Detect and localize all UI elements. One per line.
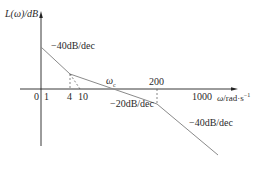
tick-10-text: 10 [78, 91, 88, 102]
bode-diagram [0, 0, 272, 169]
tick-label-1: 1 [44, 92, 49, 102]
crossover-sub: c [113, 82, 116, 88]
x-axis-label: ω/rad·s−1 [217, 92, 250, 103]
tick-origin-text: 0 [34, 91, 39, 102]
crossover-omega: ω [106, 75, 113, 86]
x-axis-exp: −1 [244, 92, 250, 98]
x-axis-unit: /rad·s [223, 93, 244, 103]
y-axis-arrow-icon [39, 11, 43, 18]
slope-label-low-text: −40dB/dec [51, 40, 95, 51]
x-axis-arrow-icon [231, 87, 238, 91]
y-axis-label: L(ω)/dB [5, 9, 38, 19]
slope-label-mid: −20dB/dec [110, 99, 154, 109]
tick-200-text: 200 [149, 76, 164, 87]
slope-label-low: −40dB/dec [51, 41, 95, 51]
segment-low-slope [41, 47, 70, 74]
slope-label-high: −40dB/dec [189, 118, 233, 128]
y-axis-label-text: L(ω)/dB [5, 8, 38, 19]
tick-label-200: 200 [149, 77, 164, 87]
tick-label-1000: 1000 [192, 92, 212, 102]
crossover-label: ωc [106, 76, 116, 88]
slope-label-mid-text: −20dB/dec [110, 98, 154, 109]
tick-label-origin: 0 [34, 92, 39, 102]
slope-label-high-text: −40dB/dec [189, 117, 233, 128]
tick-1-text: 1 [44, 91, 49, 102]
tick-1000-text: 1000 [192, 91, 212, 102]
segment-high-slope [157, 104, 218, 155]
tick-label-4: 4 [67, 92, 72, 102]
tick-label-10: 10 [78, 92, 88, 102]
tick-4-text: 4 [67, 91, 72, 102]
